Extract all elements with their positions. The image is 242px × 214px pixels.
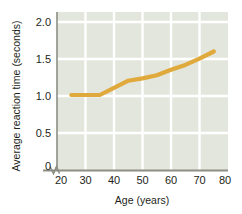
y-tick-label-1.5: 1.5 (36, 53, 51, 65)
x-tick-label-60: 60 (165, 174, 177, 186)
y-axis-title: Average reaction time (seconds) (10, 21, 22, 172)
x-tick-label-20: 20 (55, 174, 67, 186)
y-tick-label-0: 0 (45, 160, 51, 172)
chart-canvas: 2.0 1.5 1.0 0.5 0 20 30 40 50 60 70 80 A… (0, 0, 242, 214)
x-axis-title: Age (years) (115, 194, 169, 206)
x-tick-label-30: 30 (79, 174, 91, 186)
reaction-time-line-chart: 2.0 1.5 1.0 0.5 0 20 30 40 50 60 70 80 A… (0, 0, 242, 214)
x-tick-label-40: 40 (108, 174, 120, 186)
y-tick-label-1.0: 1.0 (36, 90, 51, 102)
x-tick-label-70: 70 (193, 174, 205, 186)
y-tick-label-0.5: 0.5 (36, 127, 51, 139)
x-tick-label-80: 80 (219, 174, 231, 186)
y-tick-label-2.0: 2.0 (36, 16, 51, 28)
x-tick-label-50: 50 (136, 174, 148, 186)
